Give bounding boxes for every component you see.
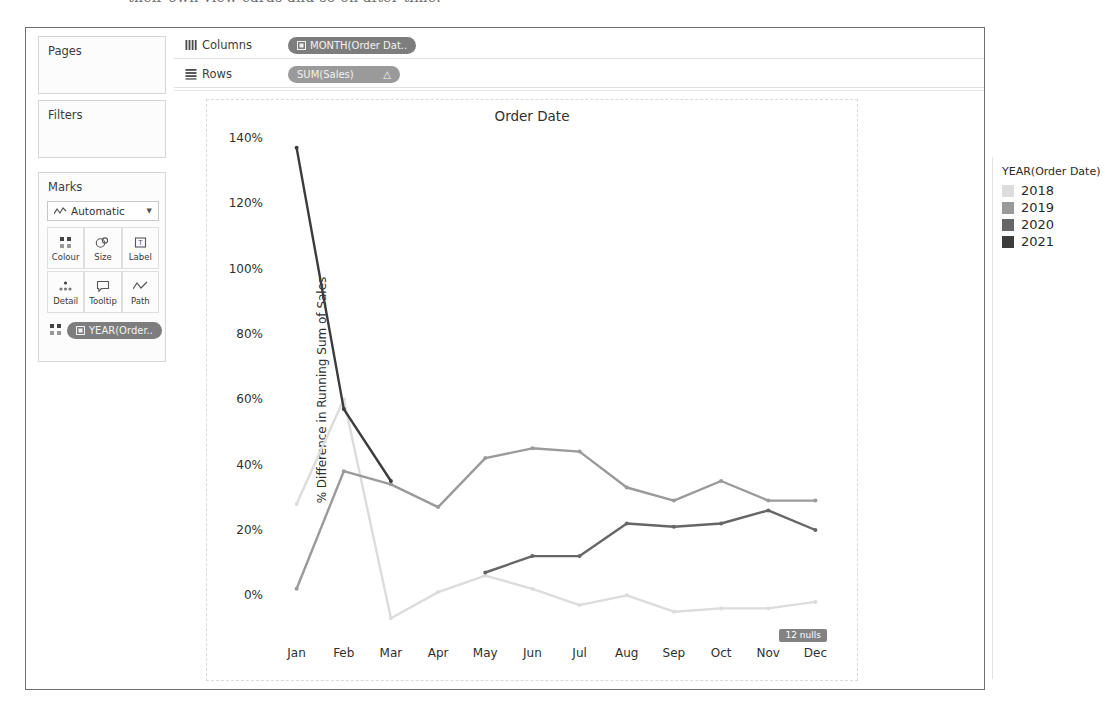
marks-card[interactable]: Marks Automatic ▼ Colour [38, 172, 166, 362]
legend-item[interactable]: 2019 [996, 200, 1105, 217]
pill-sum-sales[interactable]: SUM(Sales) △ [288, 66, 400, 83]
marks-colour-encoding-row: YEAR(Order.. [49, 321, 162, 340]
marks-detail-label: Detail [53, 296, 78, 306]
mark-type-dropdown[interactable]: Automatic ▼ [47, 201, 159, 221]
data-point[interactable] [342, 407, 346, 411]
svg-text:T: T [137, 239, 143, 247]
calendar-icon [76, 326, 85, 335]
legend-item-label: 2019 [1021, 200, 1054, 215]
label-text-icon: T [134, 234, 147, 250]
colour-squares-icon [59, 234, 72, 250]
x-axis-tick-label: Jul [572, 646, 586, 660]
data-point[interactable] [625, 486, 629, 490]
marks-colour-button[interactable]: Colour [47, 227, 84, 269]
nulls-badge[interactable]: 12 nulls [779, 629, 826, 642]
data-point[interactable] [578, 450, 582, 454]
chevron-down-icon[interactable]: ▼ [147, 207, 152, 215]
x-axis-tick-label: Sep [663, 646, 686, 660]
viz-pane: Order Date % Difference in Running Sum o… [174, 90, 984, 689]
marks-buttons-row-2: Detail Tooltip Path [47, 271, 159, 313]
pill-year-order-date[interactable]: YEAR(Order.. [67, 322, 162, 339]
data-point[interactable] [530, 587, 534, 591]
pill-sum-sales-label: SUM(Sales) [297, 69, 354, 80]
legend-item[interactable]: 2021 [996, 234, 1105, 251]
data-point[interactable] [719, 479, 723, 483]
data-point[interactable] [813, 528, 817, 532]
colour-legend: YEAR(Order Date) 2018201920202021 [996, 161, 1105, 251]
series-line-2020[interactable] [485, 510, 815, 572]
legend-item[interactable]: 2018 [996, 183, 1105, 200]
data-point[interactable] [342, 469, 346, 473]
x-axis-tick-label: Jan [287, 646, 306, 660]
columns-shelf-pills: MONTH(Order Dat.. [288, 37, 416, 54]
data-point[interactable] [389, 616, 393, 620]
legend-swatch [1002, 236, 1014, 248]
legend-title: YEAR(Order Date) [996, 161, 1105, 183]
line-chart-plot [207, 100, 857, 680]
marks-size-button[interactable]: Size [84, 227, 121, 269]
mark-type-label: Automatic [71, 205, 147, 217]
rows-shelf[interactable]: Rows SUM(Sales) △ [174, 61, 984, 88]
marks-buttons-row-1: Colour Size T Label [47, 227, 159, 269]
x-axis-tick-label: Aug [615, 646, 638, 660]
data-point[interactable] [295, 146, 299, 150]
data-point[interactable] [530, 446, 534, 450]
marks-path-button[interactable]: Path [122, 271, 159, 313]
y-axis-tick-label: 40% [207, 458, 263, 472]
marks-label-button[interactable]: T Label [122, 227, 159, 269]
marks-tooltip-button[interactable]: Tooltip [84, 271, 121, 313]
data-point[interactable] [483, 571, 487, 575]
rows-shelf-label: Rows [202, 67, 288, 81]
data-point[interactable] [295, 502, 299, 506]
data-point[interactable] [766, 499, 770, 503]
marks-detail-button[interactable]: Detail [47, 271, 84, 313]
data-point[interactable] [295, 587, 299, 591]
data-point[interactable] [766, 606, 770, 610]
tableau-worksheet-frame: Pages Filters Marks Automatic ▼ Colour [25, 27, 985, 690]
x-axis-tick-label: Apr [428, 646, 449, 660]
data-point[interactable] [813, 600, 817, 604]
marks-colour-label: Colour [52, 252, 80, 262]
data-point[interactable] [766, 508, 770, 512]
y-axis-tick-label: 140% [207, 131, 263, 145]
series-line-2021[interactable] [297, 148, 391, 481]
legend-items: 2018201920202021 [996, 183, 1105, 251]
marks-label-label: Label [129, 252, 152, 262]
legend-swatch [1002, 202, 1014, 214]
series-line-2018[interactable] [297, 399, 816, 618]
detail-dots-icon [58, 278, 73, 294]
data-point[interactable] [672, 610, 676, 614]
data-point[interactable] [719, 606, 723, 610]
filters-card[interactable]: Filters [38, 100, 166, 158]
marks-size-label: Size [94, 252, 111, 262]
legend-item[interactable]: 2020 [996, 217, 1105, 234]
data-point[interactable] [483, 456, 487, 460]
legend-item-label: 2020 [1021, 217, 1054, 232]
data-point[interactable] [672, 499, 676, 503]
data-point[interactable] [672, 525, 676, 529]
legend-swatch [1002, 219, 1014, 231]
pages-card[interactable]: Pages [38, 36, 166, 94]
y-axis-tick-label: 100% [207, 262, 263, 276]
data-point[interactable] [625, 522, 629, 526]
left-rail: Pages Filters Marks Automatic ▼ Colour [26, 28, 174, 689]
data-point[interactable] [578, 603, 582, 607]
quick-table-calc-icon: △ [383, 69, 391, 80]
columns-shelf-label: Columns [202, 38, 288, 52]
data-point[interactable] [389, 479, 393, 483]
data-point[interactable] [813, 499, 817, 503]
columns-icon [180, 39, 202, 51]
data-point[interactable] [436, 505, 440, 509]
x-axis-tick-label: May [473, 646, 498, 660]
data-point[interactable] [719, 522, 723, 526]
pill-month-order-date[interactable]: MONTH(Order Dat.. [288, 37, 416, 54]
data-point[interactable] [436, 590, 440, 594]
tooltip-bubble-icon [96, 278, 110, 294]
data-point[interactable] [625, 593, 629, 597]
y-axis-tick-label: 80% [207, 327, 263, 341]
data-point[interactable] [578, 554, 582, 558]
data-point[interactable] [530, 554, 534, 558]
chart-container[interactable]: Order Date % Difference in Running Sum o… [206, 99, 858, 681]
columns-shelf[interactable]: Columns MONTH(Order Dat.. [174, 32, 984, 59]
legend-divider [992, 157, 993, 679]
